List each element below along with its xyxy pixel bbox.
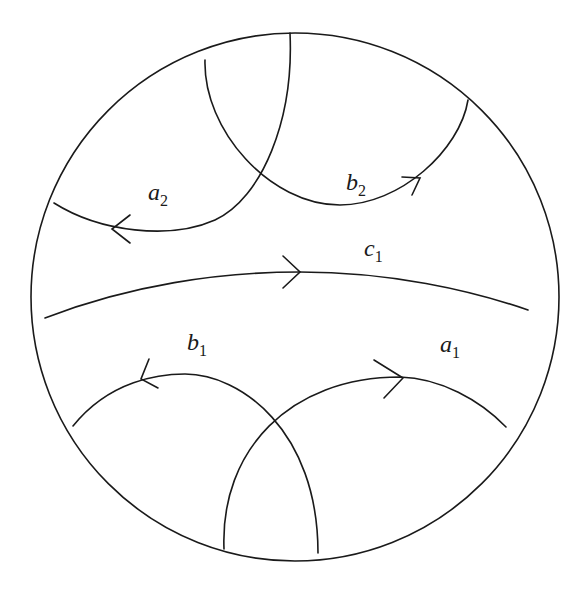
label-a1: a1 <box>440 331 460 361</box>
label-b1: b1 <box>187 329 207 359</box>
label-a2: a2 <box>148 179 168 209</box>
arrow-right-icon <box>374 360 403 398</box>
curve-b2 <box>205 60 468 205</box>
curve-b1 <box>73 359 318 553</box>
arrow-right-icon <box>402 177 420 195</box>
label-b2: b2 <box>346 169 366 199</box>
arrow-left-icon <box>141 359 158 388</box>
curve-a1 <box>224 360 506 549</box>
label-c1: c1 <box>364 235 383 265</box>
curve-a2 <box>54 33 290 243</box>
surface-curves-diagram: a2 b2 c1 b1 a1 <box>0 0 584 590</box>
curve-c1 <box>45 256 528 318</box>
